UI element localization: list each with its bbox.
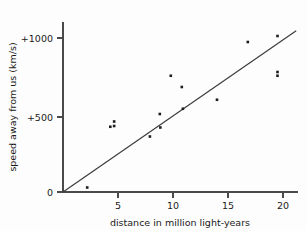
data-point [247,41,250,44]
y-tick-label-0: 0 [47,187,53,198]
x-tick-label-10: 10 [167,200,179,211]
y-tick-label-500: +500 [27,112,53,123]
data-point [113,120,116,123]
x-tick-label-20: 20 [277,200,289,211]
data-point [276,74,279,77]
data-point [276,35,279,38]
y-tick-label-1000: +1000 [21,33,53,44]
y-axis-title: speed away from us (km/s) [7,42,18,171]
data-point [149,135,152,138]
data-point [276,71,279,74]
data-point [159,113,162,116]
x-tick-label-15: 15 [222,200,234,211]
data-point [113,125,116,128]
data-point [159,126,162,129]
y-axis-ticks [57,38,63,192]
hubble-diagram-figure: 0 +500 +1000 5 10 15 20 distance in mill… [0,0,307,231]
x-axis-ticks [118,192,283,198]
data-point [86,186,89,189]
data-point [181,86,184,89]
x-tick-label-5: 5 [115,200,121,211]
trend-line [63,31,296,192]
data-point [182,107,185,110]
scatter-plot: 0 +500 +1000 5 10 15 20 distance in mill… [0,0,307,231]
data-points-group [86,35,279,189]
data-point [216,98,219,101]
data-point [109,125,112,128]
data-point [170,74,173,77]
x-axis-title: distance in million light-years [110,217,250,228]
